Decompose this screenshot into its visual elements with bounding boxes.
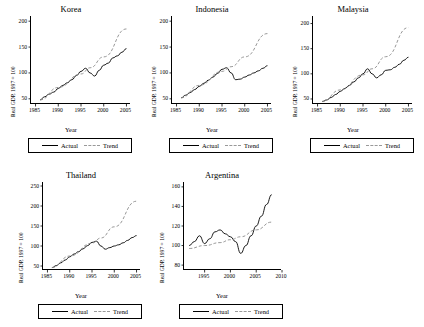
y-tick-label: 50 <box>20 263 39 269</box>
x-axis-label-malaysia: Year <box>282 126 424 133</box>
legend-label-trend: Trend <box>385 142 400 149</box>
legend-label-trend: Trend <box>254 308 269 315</box>
y-tick-label: 150 <box>8 44 27 50</box>
series-actual <box>322 57 408 101</box>
chart-panel-indonesia: Indonesia Real GDP, 1997 = 100 Year Actu… <box>141 4 283 156</box>
plot-area-thailand <box>42 182 140 270</box>
x-tick-label: 1990 <box>186 107 210 113</box>
legend-label-actual: Actual <box>202 142 219 149</box>
x-tick-label: 1990 <box>327 107 351 113</box>
x-tick-label: 2005 <box>113 107 137 113</box>
legend-indonesia: Actual Trend <box>169 138 273 153</box>
chart-title-argentina: Argentina <box>151 170 293 180</box>
legend-item-actual: Actual <box>42 142 78 149</box>
y-tick-label: 100 <box>20 243 39 249</box>
chart-title-thailand: Thailand <box>10 170 152 180</box>
y-tick-label: 50 <box>8 95 27 101</box>
x-tick-label: 1985 <box>34 273 58 279</box>
series-lines-malaysia <box>313 16 413 104</box>
x-tick-label: 2005 <box>254 107 278 113</box>
y-tick-label: 80 <box>161 262 180 268</box>
y-tick-label: 150 <box>290 45 309 51</box>
x-axis-label-indonesia: Year <box>141 126 283 133</box>
x-tick-label: 1990 <box>45 107 69 113</box>
legend-item-trend: Trend <box>235 308 269 315</box>
x-tick-label: 2000 <box>373 107 397 113</box>
legend-item-trend: Trend <box>84 142 118 149</box>
y-tick-label: 150 <box>20 223 39 229</box>
chart-title-malaysia: Malaysia <box>282 4 424 14</box>
series-lines-indonesia <box>172 16 272 104</box>
chart-panel-malaysia: Malaysia Real GDP, 1997 = 100 Year Actua… <box>282 4 424 156</box>
y-tick-label: 200 <box>20 203 39 209</box>
legend-item-trend: Trend <box>94 308 128 315</box>
x-tick-label: 2005 <box>395 107 419 113</box>
series-actual <box>52 236 137 268</box>
series-actual <box>181 66 267 98</box>
y-tick-label: 100 <box>149 69 168 75</box>
x-tick-label: 1995 <box>68 107 92 113</box>
y-tick-label: 100 <box>8 69 27 75</box>
legend-label-actual: Actual <box>71 308 88 315</box>
series-lines-korea <box>31 16 131 104</box>
legend-item-actual: Actual <box>52 308 88 315</box>
series-trend <box>189 222 272 248</box>
y-tick-label: 100 <box>290 70 309 76</box>
legend-label-actual: Actual <box>61 142 78 149</box>
legend-malaysia: Actual Trend <box>310 138 414 153</box>
x-tick-label: 1985 <box>305 107 329 113</box>
series-lines-argentina <box>184 182 282 270</box>
legend-label-trend: Trend <box>113 308 128 315</box>
legend-label-trend: Trend <box>103 142 118 149</box>
x-tick-label: 1995 <box>192 273 216 279</box>
y-tick-label: 50 <box>290 95 309 101</box>
y-tick-label: 150 <box>149 44 168 50</box>
figure-panel-grid: Korea Real GDP, 1997 = 100 Year Actual T… <box>0 0 424 327</box>
legend-argentina: Actual Trend <box>179 304 283 319</box>
x-tick-label: 2005 <box>243 273 267 279</box>
chart-panel-argentina: Argentina Real GDP, 1997 = 100 Year Actu… <box>151 170 293 322</box>
legend-label-trend: Trend <box>244 142 259 149</box>
legend-item-trend: Trend <box>225 142 259 149</box>
chart-panel-thailand: Thailand Real GDP, 1997 = 100 Year Actua… <box>10 170 152 322</box>
legend-label-actual: Actual <box>343 142 360 149</box>
x-tick-label: 2000 <box>91 107 115 113</box>
series-actual <box>189 195 272 254</box>
series-actual <box>40 49 126 100</box>
x-tick-label: 2005 <box>124 273 148 279</box>
x-tick-label: 1990 <box>57 273 81 279</box>
y-tick-label: 120 <box>161 223 180 229</box>
legend-item-actual: Actual <box>193 308 229 315</box>
y-tick-label: 200 <box>290 20 309 26</box>
series-trend <box>322 28 408 102</box>
y-tick-label: 100 <box>161 242 180 248</box>
y-axis-label-thailand: Real GDP, 1997 = 100 <box>18 232 24 283</box>
y-tick-label: 160 <box>161 183 180 189</box>
x-tick-label: 2000 <box>217 273 241 279</box>
series-trend <box>40 29 126 100</box>
x-axis-label-korea: Year <box>0 126 142 133</box>
plot-area-korea <box>30 16 130 104</box>
x-tick-label: 1995 <box>79 273 103 279</box>
legend-item-trend: Trend <box>366 142 400 149</box>
plot-area-argentina <box>183 182 281 270</box>
x-axis-label-thailand: Year <box>10 292 152 299</box>
y-tick-label: 50 <box>149 95 168 101</box>
x-tick-label: 2010 <box>269 273 293 279</box>
legend-item-actual: Actual <box>183 142 219 149</box>
y-tick-label: 200 <box>149 18 168 24</box>
x-axis-label-argentina: Year <box>151 292 293 299</box>
y-tick-label: 200 <box>8 18 27 24</box>
plot-area-malaysia <box>312 16 412 104</box>
x-tick-label: 1995 <box>209 107 233 113</box>
x-tick-label: 1985 <box>164 107 188 113</box>
chart-title-indonesia: Indonesia <box>141 4 283 14</box>
series-lines-thailand <box>43 182 141 270</box>
y-axis-label-argentina: Real GDP, 1997 = 100 <box>159 232 165 283</box>
chart-title-korea: Korea <box>0 4 142 14</box>
x-tick-label: 2000 <box>232 107 256 113</box>
chart-panel-korea: Korea Real GDP, 1997 = 100 Year Actual T… <box>0 4 142 156</box>
x-tick-label: 1995 <box>350 107 374 113</box>
series-trend <box>181 34 267 98</box>
x-tick-label: 1985 <box>23 107 47 113</box>
